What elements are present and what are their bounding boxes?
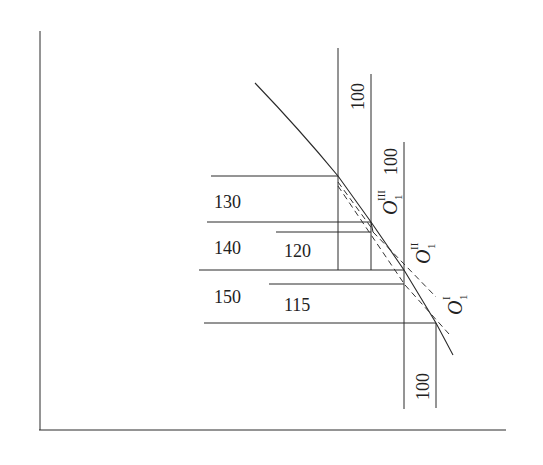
svg-text:I: I <box>440 296 452 300</box>
label-100-top: 100 <box>348 83 368 110</box>
label-130: 130 <box>214 192 241 212</box>
label-115: 115 <box>284 295 310 315</box>
label-120: 120 <box>284 241 311 261</box>
svg-text:III: III <box>375 190 387 201</box>
svg-text:O: O <box>379 201 401 215</box>
svg-text:O: O <box>444 301 466 315</box>
label-100-mid: 100 <box>381 148 401 175</box>
label-o1-i: O 1 I <box>440 295 469 316</box>
svg-text:1: 1 <box>392 195 404 201</box>
label-o1-ii: O 1 II <box>408 242 437 264</box>
diagram-canvas: 130 140 150 120 115 100 100 100 O 1 III … <box>0 0 543 465</box>
dashed-line-4 <box>405 285 449 334</box>
label-150: 150 <box>214 287 241 307</box>
svg-text:II: II <box>408 242 420 250</box>
label-140: 140 <box>214 238 241 258</box>
label-100-bottom: 100 <box>413 373 433 400</box>
svg-text:1: 1 <box>425 244 437 250</box>
svg-text:1: 1 <box>457 295 469 301</box>
dashed-line-1 <box>338 182 373 230</box>
label-o1-iii: O 1 III <box>375 190 404 215</box>
svg-text:O: O <box>412 250 434 264</box>
